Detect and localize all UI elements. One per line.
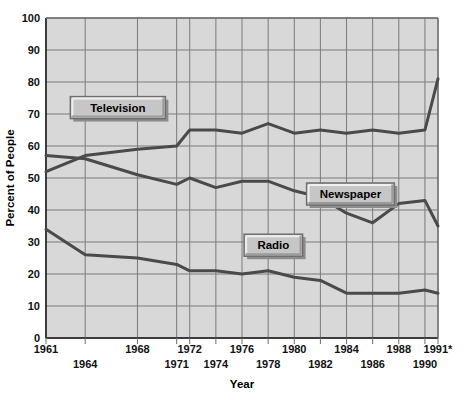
series-label-text: Radio bbox=[257, 239, 289, 251]
series-label-newspaper: Newspaper bbox=[307, 183, 398, 208]
y-tick-label: 60 bbox=[28, 140, 40, 152]
y-tick-label: 80 bbox=[28, 76, 40, 88]
x-tick-label: 1990 bbox=[413, 358, 437, 370]
y-tick-label: 20 bbox=[28, 268, 40, 280]
y-tick-label: 100 bbox=[22, 12, 40, 24]
x-tick-label: 1984 bbox=[334, 343, 359, 355]
y-tick-label: 40 bbox=[28, 204, 40, 216]
x-tick-label: 1978 bbox=[256, 358, 280, 370]
line-chart: 0102030405060708090100 19611968197219761… bbox=[0, 0, 476, 400]
x-tick-label: 1986 bbox=[360, 358, 384, 370]
x-axis-title: Year bbox=[230, 378, 255, 390]
x-tick-label: 1988 bbox=[387, 343, 411, 355]
x-tick-label: 1974 bbox=[204, 358, 229, 370]
x-tick-label: 1961 bbox=[34, 343, 58, 355]
series-label-text: Newspaper bbox=[320, 188, 382, 200]
y-tick-label: 50 bbox=[28, 172, 40, 184]
y-axis-title: Percent of People bbox=[4, 129, 16, 226]
x-tick-label: 1991* bbox=[424, 343, 453, 355]
x-tick-label: 1972 bbox=[177, 343, 201, 355]
y-tick-label: 70 bbox=[28, 108, 40, 120]
x-axis-tick-labels-upper: 19611968197219761980198419881991* bbox=[34, 343, 453, 355]
x-tick-label: 1971 bbox=[164, 358, 188, 370]
y-tick-label: 30 bbox=[28, 236, 40, 248]
x-tick-label: 1968 bbox=[125, 343, 149, 355]
x-tick-label: 1964 bbox=[73, 358, 98, 370]
x-axis-tick-labels-lower: 1964197119741978198219861990 bbox=[73, 358, 437, 370]
x-tick-label: 1976 bbox=[230, 343, 254, 355]
y-tick-label: 90 bbox=[28, 44, 40, 56]
series-label-television: Television bbox=[70, 97, 168, 122]
x-tick-label: 1982 bbox=[308, 358, 332, 370]
y-tick-label: 10 bbox=[28, 300, 40, 312]
series-label-text: Television bbox=[90, 102, 145, 114]
y-axis-tick-labels: 0102030405060708090100 bbox=[22, 12, 40, 344]
series-label-radio: Radio bbox=[244, 234, 305, 259]
x-tick-label: 1980 bbox=[282, 343, 306, 355]
chart-container: 0102030405060708090100 19611968197219761… bbox=[0, 0, 476, 400]
